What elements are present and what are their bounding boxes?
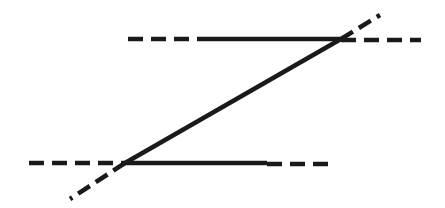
- transversal-lower-dashed-extension: [70, 163, 125, 199]
- z-angle-diagram: [0, 0, 445, 208]
- top-parallel-line: [128, 39, 421, 40]
- transversal-upper-dashed-extension: [341, 15, 380, 39]
- transversal-line: [70, 15, 380, 199]
- transversal-solid-segment: [125, 39, 341, 163]
- bottom-parallel-line: [29, 163, 335, 164]
